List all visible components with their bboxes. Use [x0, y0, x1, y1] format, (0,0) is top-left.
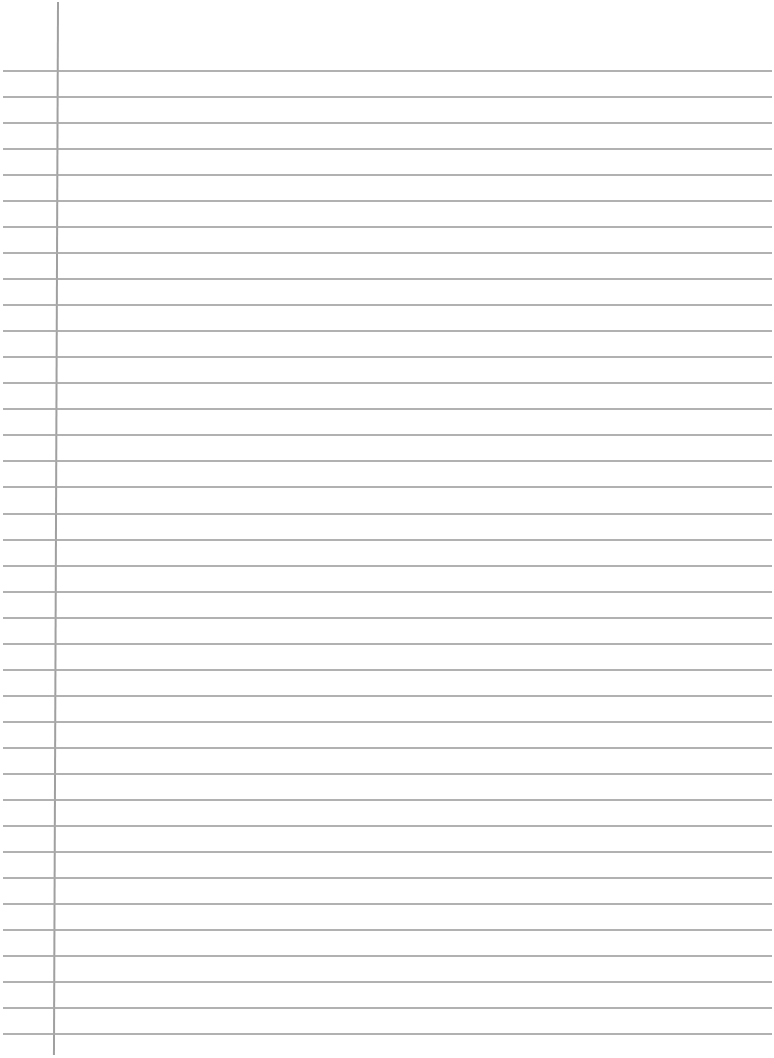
ruled-line	[3, 877, 772, 879]
ruled-line	[3, 1007, 772, 1009]
ruled-line	[3, 539, 772, 541]
ruled-line	[3, 122, 772, 124]
ruled-line	[3, 851, 772, 853]
ruled-line	[3, 825, 772, 827]
ruled-line	[3, 148, 772, 150]
ruled-line	[3, 174, 772, 176]
ruled-line	[3, 955, 772, 957]
ruled-line	[3, 200, 772, 202]
ruled-line	[3, 486, 772, 488]
ruled-line	[3, 330, 772, 332]
ruled-line	[3, 643, 772, 645]
ruled-line	[3, 226, 772, 228]
ruled-paper	[0, 0, 774, 1058]
ruled-line	[3, 903, 772, 905]
ruled-line	[3, 773, 772, 775]
ruled-line	[3, 252, 772, 254]
ruled-line	[3, 408, 772, 410]
ruled-line	[3, 669, 772, 671]
ruled-line	[3, 304, 772, 306]
ruled-line	[3, 1033, 772, 1035]
ruled-line	[3, 721, 772, 723]
ruled-line	[3, 434, 772, 436]
ruled-line	[3, 356, 772, 358]
ruled-line	[3, 981, 772, 983]
ruled-line	[3, 799, 772, 801]
ruled-line	[3, 617, 772, 619]
ruled-line	[3, 929, 772, 931]
ruled-line	[3, 460, 772, 462]
ruled-line	[3, 747, 772, 749]
ruled-line	[3, 96, 772, 98]
ruled-line	[3, 695, 772, 697]
ruled-line	[3, 278, 772, 280]
ruled-line	[3, 382, 772, 384]
ruled-line	[3, 565, 772, 567]
ruled-line	[3, 70, 772, 72]
margin-line	[53, 2, 59, 1055]
ruled-line	[3, 513, 772, 515]
ruled-line	[3, 591, 772, 593]
